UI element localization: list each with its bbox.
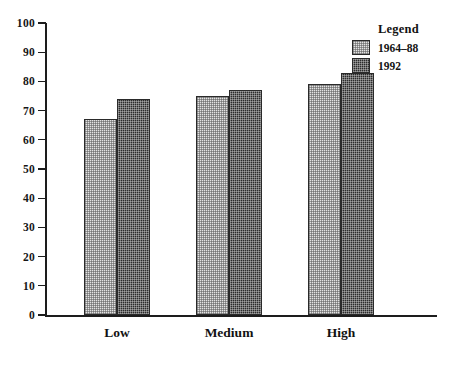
x-axis-label-medium: Medium [205, 325, 254, 341]
bar-chart: 0102030405060708090100 LowMediumHigh Leg… [0, 0, 455, 367]
y-axis-tick-label: 30 [23, 221, 35, 233]
y-axis-tick-label: 70 [23, 104, 35, 116]
legend-swatch-light [352, 40, 370, 55]
legend-entries: 1964–881992 [352, 40, 452, 73]
legend-label: 1992 [378, 60, 401, 72]
legend-title: Legend [378, 22, 452, 37]
legend-entry: 1992 [352, 58, 452, 73]
legend-swatch-dark [352, 58, 370, 73]
y-axis-tick-label: 50 [23, 163, 35, 175]
y-axis-tick-label: 40 [23, 192, 35, 204]
y-axis-tick-label: 100 [17, 17, 35, 29]
y-axis-tick-label: 90 [23, 46, 35, 58]
y-axis-tick-label: 20 [23, 250, 35, 262]
x-axis-label-high: High [327, 325, 356, 341]
bar-low-1964-88 [84, 119, 117, 315]
y-axis-tick-label: 60 [23, 134, 35, 146]
x-axis-label-low: Low [104, 325, 130, 341]
y-axis-tick-label: 10 [23, 280, 35, 292]
x-axis-line [45, 315, 437, 317]
legend-entry: 1964–88 [352, 40, 452, 55]
bar-high-1964-88 [308, 84, 341, 315]
y-axis-tick-label: 80 [23, 75, 35, 87]
y-axis-tick-label: 0 [29, 309, 35, 321]
bar-high-1992 [341, 73, 374, 315]
legend-label: 1964–88 [378, 42, 418, 54]
bar-medium-1964-88 [196, 96, 229, 315]
bar-medium-1992 [229, 90, 262, 315]
legend: Legend 1964–881992 [352, 22, 452, 76]
bar-low-1992 [117, 99, 150, 315]
